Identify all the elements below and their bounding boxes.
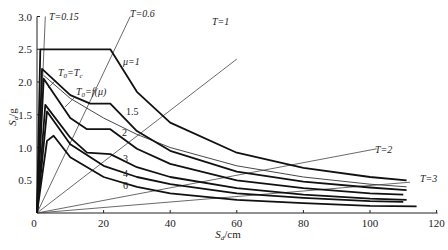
x-tick-label: 100 [362,217,379,229]
x-tick-label: 80 [298,217,310,229]
label-mu-2: 2 [122,127,127,138]
label-t3: T=3 [420,173,437,184]
y-tick-label: 3.0 [18,11,32,23]
y-tick-label: 2.5 [18,43,32,55]
period-line [37,17,130,214]
y-tick-label: 0.5 [18,174,32,186]
x-tick-label: 120 [428,217,445,229]
x-tick-label: 40 [165,217,177,229]
label-t1: T=1 [212,16,229,27]
annotations: T=0.15T=0.6T=1T=2T=3μ=11.52346T0=TcT0=f(… [48,8,437,191]
period-lines [37,17,410,214]
y-tick-label: 2.0 [18,76,32,88]
label-mu-3: 3 [123,153,128,164]
demand-curve [37,49,407,213]
label-mu-4: 4 [123,168,128,179]
y-tick-label: 1.0 [18,142,32,154]
label-t0-fmu: T0=f(μ) [76,86,107,99]
label-mu-6: 6 [123,180,128,191]
capacity-spectrum-chart: 0204060801001200.51.01.52.02.53.0Sd/cmSa… [0,0,448,250]
y-tick-label: 1.5 [18,109,32,121]
label-t2: T=2 [375,144,392,155]
label-t015: T=0.15 [49,11,79,22]
x-axis-title: Sd/cm [215,228,241,242]
demand-curves [37,49,417,213]
x-tick-label: 0 [31,217,37,229]
axes: 0204060801001200.51.01.52.02.53.0Sd/cmSa… [6,11,445,243]
x-tick-label: 20 [98,217,110,229]
label-mu1: μ=1 [122,56,140,67]
label-t06: T=0.6 [130,8,155,19]
label-mu-1.5: 1.5 [126,106,139,117]
y-axis-title: Sa/g [6,108,20,126]
label-t0-tc: T0=Tc [58,67,83,80]
